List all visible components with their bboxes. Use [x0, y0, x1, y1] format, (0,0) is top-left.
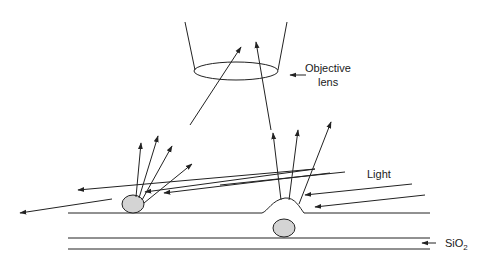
particle-scattering-diagram: Objective lens Light SiO2: [0, 0, 481, 263]
incident-light-bump: [305, 184, 425, 207]
collected-ray-right: [256, 42, 271, 130]
incident-light-left: [20, 169, 330, 213]
objective-lens-label-line1: Objective: [305, 62, 351, 74]
light-beam: [220, 172, 345, 185]
surface-particle: [122, 195, 144, 213]
light-label: Light: [367, 168, 391, 180]
collected-ray-left: [190, 47, 241, 125]
embedded-particle: [273, 219, 295, 237]
scattered-rays-bump: [273, 122, 331, 204]
objective-lens-label-line2: lens: [318, 76, 339, 88]
sio2-label: SiO2: [445, 237, 468, 252]
objective-lens: [185, 22, 287, 80]
